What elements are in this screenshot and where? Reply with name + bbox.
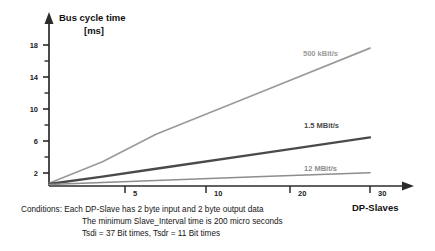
- conditions-line-3: Tsdi = 37 Bit times, Tsdr = 11 Bit times: [82, 229, 220, 238]
- bus-cycle-time-chart: 18 14 10 6 2 5 10 20 30 Bus cycle time […: [0, 0, 435, 251]
- y-tick-label-2: 2: [34, 169, 38, 178]
- x-tick-label-20: 20: [298, 189, 306, 198]
- series-label-12mbit: 12 MBit/s: [304, 164, 337, 173]
- chart-figure: 18 14 10 6 2 5 10 20 30 Bus cycle time […: [0, 0, 435, 251]
- y-axis-title-line2: [ms]: [84, 25, 104, 36]
- conditions-line-2: The minimum Slave_Interval time is 200 m…: [82, 217, 283, 226]
- x-axis-title: DP-Slaves: [352, 202, 398, 213]
- y-tick-label-10: 10: [30, 105, 38, 114]
- series-label-500kbit: 500 kBit/s: [303, 49, 338, 58]
- x-tick-label-10: 10: [214, 189, 222, 198]
- y-tick-label-14: 14: [30, 73, 39, 82]
- y-tick-label-18: 18: [30, 41, 38, 50]
- y-tick-label-6: 6: [34, 137, 38, 146]
- y-axis-title-line1: Bus cycle time: [59, 12, 126, 23]
- x-tick-label-5: 5: [133, 189, 137, 198]
- conditions-line-1: Conditions: Each DP-Slave has 2 byte inp…: [21, 205, 264, 214]
- x-tick-label-30: 30: [378, 189, 386, 198]
- series-label-1-5mbit: 1.5 MBit/s: [304, 121, 339, 130]
